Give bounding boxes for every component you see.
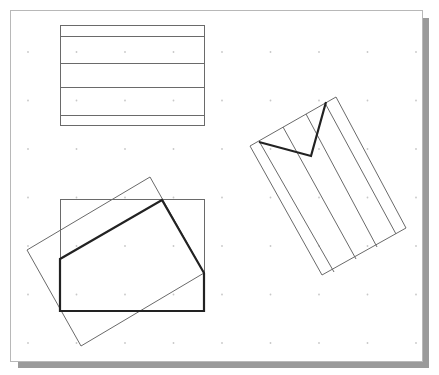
- v-shape-line[interactable]: [259, 102, 326, 156]
- grid-dot: [367, 197, 369, 199]
- grid-dot: [124, 197, 126, 199]
- grid-dot: [367, 294, 369, 296]
- grid-dot: [27, 100, 29, 102]
- grid-dot: [415, 51, 417, 53]
- pentagon-with-bounding-boxes[interactable]: [27, 177, 205, 346]
- grid-dot: [415, 100, 417, 102]
- rectangle-outline[interactable]: [61, 26, 205, 126]
- grid-dot: [367, 342, 369, 344]
- grid-dot: [270, 148, 272, 150]
- grid-dot: [124, 245, 126, 247]
- tilted-rectangle-outline[interactable]: [250, 97, 406, 275]
- diagram-svg: [0, 0, 439, 375]
- grid-dot: [76, 342, 78, 344]
- grid-dot: [221, 294, 223, 296]
- grid-dot: [415, 294, 417, 296]
- grid-dot: [27, 342, 29, 344]
- grid-dot: [76, 294, 78, 296]
- grid-dot: [367, 51, 369, 53]
- grid-dot: [124, 100, 126, 102]
- grid-dot: [415, 245, 417, 247]
- grid-dot: [270, 342, 272, 344]
- grid-dot: [221, 148, 223, 150]
- grid-dot: [173, 100, 175, 102]
- grid-dot: [270, 197, 272, 199]
- grid-dot: [76, 148, 78, 150]
- grid-dot: [415, 342, 417, 344]
- pentagon-shape[interactable]: [60, 200, 204, 311]
- grid-dot: [221, 197, 223, 199]
- grid-dot: [27, 245, 29, 247]
- grid-dot: [270, 100, 272, 102]
- grid-dot: [318, 148, 320, 150]
- grid-dot: [27, 148, 29, 150]
- grid-dot: [76, 51, 78, 53]
- grid-dot: [270, 245, 272, 247]
- grid-dot: [173, 51, 175, 53]
- grid-dot: [173, 342, 175, 344]
- grid-dot: [221, 51, 223, 53]
- grid-dot: [221, 342, 223, 344]
- grid-dot: [124, 294, 126, 296]
- grid-dot: [27, 294, 29, 296]
- tilted-stripe-line: [283, 127, 356, 259]
- grid-dot: [270, 294, 272, 296]
- grid-dots: [27, 51, 417, 344]
- grid-dot: [318, 197, 320, 199]
- grid-dot: [318, 51, 320, 53]
- grid-dot: [27, 51, 29, 53]
- grid-dot: [76, 197, 78, 199]
- grid-dot: [367, 148, 369, 150]
- grid-dot: [367, 100, 369, 102]
- grid-dot: [124, 51, 126, 53]
- tilted-striped-rectangle[interactable]: [250, 97, 406, 275]
- grid-dot: [124, 342, 126, 344]
- grid-dot: [415, 148, 417, 150]
- grid-dot: [318, 100, 320, 102]
- grid-dot: [76, 245, 78, 247]
- rotated-bounding-box[interactable]: [27, 177, 204, 346]
- grid-dot: [173, 197, 175, 199]
- grid-dot: [173, 245, 175, 247]
- grid-dot: [415, 197, 417, 199]
- striped-rectangle[interactable]: [60, 26, 205, 126]
- grid-dot: [270, 51, 272, 53]
- grid-dot: [221, 100, 223, 102]
- grid-dot: [318, 342, 320, 344]
- grid-dot: [76, 100, 78, 102]
- grid-dot: [318, 294, 320, 296]
- grid-dot: [27, 197, 29, 199]
- grid-dot: [124, 148, 126, 150]
- grid-dot: [173, 294, 175, 296]
- grid-dot: [367, 245, 369, 247]
- grid-dot: [173, 148, 175, 150]
- grid-dot: [221, 245, 223, 247]
- tilted-stripe-line: [259, 141, 334, 272]
